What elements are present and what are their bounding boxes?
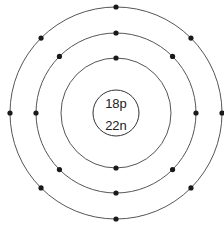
electron-dot <box>193 110 198 115</box>
electron-dot <box>57 54 62 59</box>
electron-dot <box>188 35 193 40</box>
electron-dot <box>38 35 43 40</box>
electron-dot <box>113 30 118 35</box>
electron-dot <box>170 54 175 59</box>
electron-dot <box>188 185 193 190</box>
electron-dot <box>57 167 62 172</box>
electron-dot <box>113 216 118 221</box>
electron-dot <box>113 165 118 170</box>
electron-dot <box>113 55 118 60</box>
protons-label: 18p <box>105 96 127 111</box>
electron-dot <box>113 4 118 9</box>
electron-dot <box>113 190 118 195</box>
atom-diagram: 18p 22n <box>0 0 224 227</box>
electron-dot <box>7 110 12 115</box>
neutrons-label: 22n <box>105 118 127 133</box>
electron-dot <box>33 110 38 115</box>
electron-dot <box>170 167 175 172</box>
electron-dot <box>219 110 224 115</box>
electron-dot <box>38 185 43 190</box>
